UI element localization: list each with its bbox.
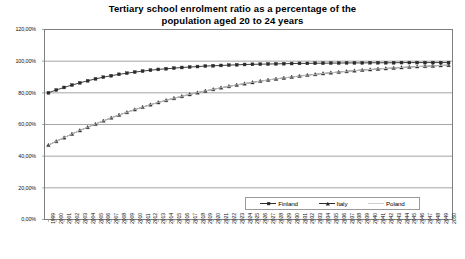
x-axis-label: 2037 xyxy=(349,213,355,224)
x-axis-label: 2035 xyxy=(333,213,339,224)
y-axis-label: 40,00% xyxy=(2,153,36,159)
x-axis-label: 2031 xyxy=(302,213,308,224)
x-axis-label: 2010 xyxy=(137,213,143,224)
x-axis-label: 2036 xyxy=(341,213,347,224)
x-axis-label: 2034 xyxy=(325,213,331,224)
x-axis-label: 2006 xyxy=(105,213,111,224)
chart-container: Tertiary school enrolment ratio as a per… xyxy=(0,0,465,259)
none-marker xyxy=(368,200,384,207)
x-axis-label: 2008 xyxy=(121,213,127,224)
x-axis-label: 2000 xyxy=(58,213,64,224)
x-axis-label: 2001 xyxy=(66,213,72,224)
x-axis-label: 2003 xyxy=(82,213,88,224)
x-axis-label: 2026 xyxy=(262,213,268,224)
x-axis-label: 2016 xyxy=(184,213,190,224)
x-axis-ticks xyxy=(42,30,449,223)
chart-legend: FinlandItalyPoland xyxy=(245,197,420,210)
gridlines xyxy=(45,30,453,188)
legend-label: Italy xyxy=(337,200,348,207)
y-axis-label: 60,00% xyxy=(2,121,36,127)
x-axis-label: 2045 xyxy=(411,213,417,224)
x-axis-label: 2007 xyxy=(113,213,119,224)
x-axis-label: 2028 xyxy=(278,213,284,224)
x-axis-label: 2023 xyxy=(239,213,245,224)
x-axis-label: 2021 xyxy=(223,213,229,224)
series-finland xyxy=(47,61,450,94)
x-axis-label: 2020 xyxy=(215,213,221,224)
legend-label: Poland xyxy=(386,200,405,207)
x-axis-label: 2042 xyxy=(388,213,394,224)
x-axis-label: 2040 xyxy=(372,213,378,224)
x-axis-label: 2041 xyxy=(380,213,386,224)
x-axis-label: 2005 xyxy=(98,213,104,224)
triangle-marker xyxy=(319,200,335,207)
y-axis-label: 0,00% xyxy=(2,216,36,222)
y-axis-label: 20,00% xyxy=(2,185,36,191)
legend-label: Finland xyxy=(278,200,298,207)
x-axis-label: 2050 xyxy=(451,213,457,224)
x-axis-label: 2027 xyxy=(270,213,276,224)
x-axis-label: 2049 xyxy=(443,213,449,224)
x-axis-label: 2011 xyxy=(145,213,151,224)
x-axis-label: 2019 xyxy=(207,213,213,224)
y-axis-label: 80,00% xyxy=(2,90,36,96)
data-series-layer xyxy=(47,61,451,146)
x-axis-label: 2032 xyxy=(309,213,315,224)
legend-item-italy[interactable]: Italy xyxy=(319,200,348,207)
x-axis-label: 2039 xyxy=(364,213,370,224)
x-axis-label: 2022 xyxy=(231,213,237,224)
x-axis-label: 2024 xyxy=(247,213,253,224)
series-poland xyxy=(48,65,448,145)
x-axis-label: 2038 xyxy=(356,213,362,224)
x-axis-label: 2048 xyxy=(435,213,441,224)
x-axis-label: 2025 xyxy=(254,213,260,224)
y-axis-label: 100,00% xyxy=(2,58,36,64)
x-axis-label: 2046 xyxy=(419,213,425,224)
series-italy xyxy=(47,63,451,146)
x-axis-label: 2029 xyxy=(286,213,292,224)
x-axis-label: 2013 xyxy=(160,213,166,224)
legend-item-poland[interactable]: Poland xyxy=(368,200,405,207)
square-marker xyxy=(260,200,276,207)
x-axis-label: 2033 xyxy=(317,213,323,224)
x-axis-label: 2015 xyxy=(176,213,182,224)
x-axis-label: 2009 xyxy=(129,213,135,224)
x-axis-label: 2043 xyxy=(396,213,402,224)
x-axis-label: 2047 xyxy=(427,213,433,224)
legend-item-finland[interactable]: Finland xyxy=(260,200,298,207)
y-axis-label: 120,00% xyxy=(2,26,36,32)
x-axis-label: 2017 xyxy=(192,213,198,224)
x-axis-label: 2018 xyxy=(200,213,206,224)
x-axis-label: 1999 xyxy=(50,213,56,224)
x-axis-label: 2044 xyxy=(404,213,410,224)
x-axis-label: 2030 xyxy=(294,213,300,224)
x-axis-label: 2014 xyxy=(168,213,174,224)
x-axis-label: 2004 xyxy=(90,213,96,224)
x-axis-label: 2012 xyxy=(152,213,158,224)
x-axis-label: 2002 xyxy=(74,213,80,224)
